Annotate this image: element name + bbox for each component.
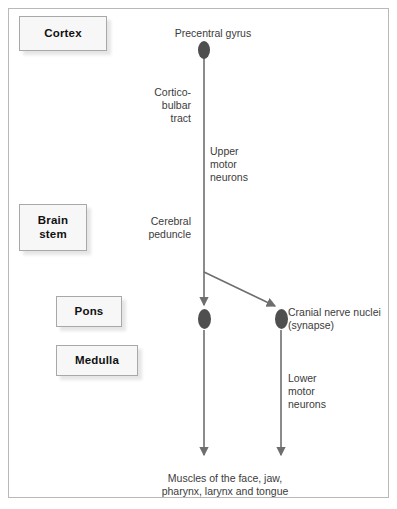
precentral-gyrus-soma [198, 41, 210, 59]
label-target-muscles: Muscles of the face, jaw, pharynx, laryn… [115, 472, 335, 498]
region-box-medulla-label: Medulla [75, 354, 119, 368]
label-cerebral-peduncle: Cerebral peduncle [101, 215, 191, 241]
region-box-cortex: Cortex [19, 16, 107, 51]
right-nucleus-soma [275, 309, 288, 329]
region-box-cortex-label: Cortex [44, 27, 82, 41]
region-box-brainstem: Brain stem [19, 204, 87, 251]
label-cranial-nerve-nuclei: Cranial nerve nuclei (synapse) [288, 306, 396, 332]
region-box-brainstem-label: Brain stem [38, 214, 68, 241]
label-upper-motor-neurons: Upper motor neurons [210, 145, 300, 184]
region-box-pons-label: Pons [75, 305, 104, 319]
label-precentral-gyrus: Precentral gyrus [145, 27, 281, 40]
region-box-pons: Pons [56, 296, 122, 327]
region-box-medulla: Medulla [56, 345, 138, 376]
label-corticobulbar-tract: Cortico- bulbar tract [101, 86, 191, 125]
left-nucleus-soma [198, 309, 211, 329]
diagram-canvas: Cortex Brain stem Pons Medulla Precentra… [8, 8, 389, 498]
label-lower-motor-neurons: Lower motor neurons [288, 372, 378, 411]
